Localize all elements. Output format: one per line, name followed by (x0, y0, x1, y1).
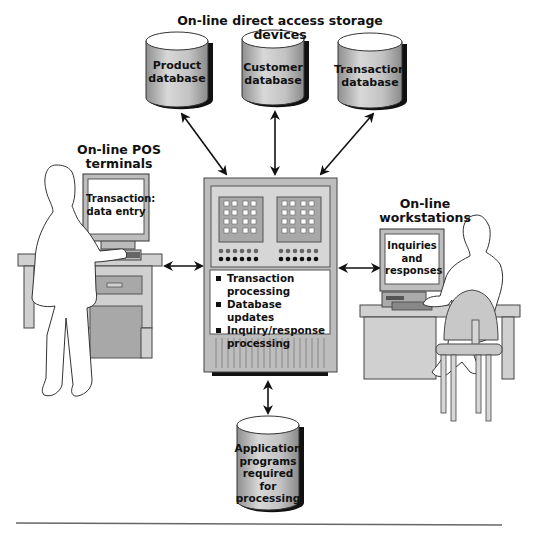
application-line4: for (234, 480, 302, 493)
product-database-label: Product database (146, 60, 208, 85)
application-line5: processing (234, 492, 302, 505)
mainframe-function-list: Transaction processing Database updates … (214, 272, 330, 350)
storage-devices-title: On-line direct access storage devices (150, 14, 410, 43)
function-item-inquiry-response: Inquiry/response processing (214, 324, 330, 350)
product-database-line1: Product (146, 60, 208, 73)
product-database-line2: database (146, 73, 208, 86)
function-item-transaction-processing: Transaction processing (214, 272, 330, 298)
workstation-screen-line1: Inquiries (385, 240, 439, 253)
application-line1: Application (234, 442, 302, 455)
bullet-icon (216, 328, 221, 333)
customer-database-line2: database (240, 75, 306, 88)
workstation-screen-line3: responses (385, 265, 439, 278)
transaction-database-line1: Transaction (334, 64, 406, 77)
function-item-database-updates: Database updates (214, 298, 330, 324)
pos-screen-line1: Transaction: (86, 193, 146, 206)
pos-terminals-title-line1: On-line POS (74, 143, 164, 157)
workstations-title-line1: On-line (375, 197, 475, 211)
customer-database-label: Customer database (240, 62, 306, 87)
workstations-title-line2: workstations (375, 211, 475, 225)
bottom-divider (16, 523, 502, 525)
transaction-database-line2: database (334, 77, 406, 90)
pos-terminals-title: On-line POS terminals (74, 143, 164, 172)
bullet-icon (216, 276, 221, 281)
workstations-title: On-line workstations (375, 197, 475, 226)
transaction-database-label: Transaction database (334, 64, 406, 89)
pos-screen-text: Transaction: data entry (86, 193, 146, 218)
workstation-screen-text: Inquiries and responses (385, 240, 439, 278)
pos-terminals-title-line2: terminals (74, 157, 164, 171)
customer-database-line1: Customer (240, 62, 306, 75)
workstation-screen-line2: and (385, 253, 439, 266)
application-line3: required (234, 467, 302, 480)
pos-screen-line2: data entry (86, 206, 146, 219)
application-programs-label: Application programs required for proces… (234, 442, 302, 505)
bullet-icon (216, 302, 221, 307)
application-line2: programs (234, 455, 302, 468)
